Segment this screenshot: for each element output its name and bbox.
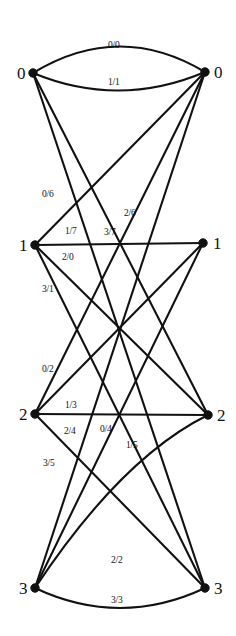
- edge-label: 0/0: [108, 40, 120, 50]
- edge-label: 0/2: [42, 364, 54, 374]
- edge-label: 1/3: [65, 400, 77, 410]
- edge-label: 1/1: [108, 77, 120, 87]
- edge-label: 2/6: [124, 208, 136, 218]
- edge-label: 2/0: [62, 252, 74, 262]
- graph-edge: [35, 414, 208, 415]
- edge-label: 1/7: [65, 226, 77, 236]
- right-node-label-2: 2: [217, 406, 226, 425]
- edge-label: 3/7: [104, 227, 116, 237]
- graph-edge: [33, 46, 205, 73]
- edge-label: 0/4: [100, 424, 112, 434]
- edge-label: 3/5: [43, 458, 55, 468]
- diagram-canvas: 0/01/12/63/70/61/72/03/10/21/32/43/50/41…: [0, 0, 236, 636]
- right-node-label-3: 3: [214, 579, 223, 598]
- left-node-label-0: 0: [17, 64, 26, 83]
- edge-label: 3/3: [111, 595, 123, 605]
- edges-group: [33, 46, 208, 608]
- left-node-label-3: 3: [19, 579, 28, 598]
- trellis-graph: 0/01/12/63/70/61/72/03/10/21/32/43/50/41…: [0, 0, 236, 636]
- edge-label: 0/6: [42, 189, 54, 199]
- left-node-0: [29, 69, 37, 77]
- right-node-2: [204, 411, 212, 419]
- edge-label: 1/5: [126, 440, 138, 450]
- right-node-label-0: 0: [214, 63, 223, 82]
- right-node-3: [201, 584, 209, 592]
- left-node-1: [31, 241, 39, 249]
- edge-label: 2/2: [111, 555, 123, 565]
- right-node-0: [201, 68, 209, 76]
- left-node-label-1: 1: [19, 236, 28, 255]
- edge-label: 3/1: [42, 284, 54, 294]
- left-node-2: [31, 410, 39, 418]
- left-node-3: [31, 584, 39, 592]
- right-node-1: [199, 239, 207, 247]
- graph-edge: [35, 245, 208, 415]
- left-node-label-2: 2: [19, 405, 28, 424]
- edge-label: 2/4: [64, 426, 76, 436]
- right-node-label-1: 1: [213, 234, 222, 253]
